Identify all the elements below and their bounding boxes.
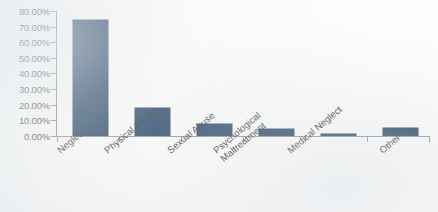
x-label-line: Medical Neglect — [285, 104, 344, 156]
x-label-line: Neglect — [55, 126, 87, 155]
x-label-line: Physical Abuse — [102, 106, 158, 156]
bar-chart: 80.00% 70.00% 60.00% 50.00% 40.00% 30.00… — [0, 0, 438, 212]
x-label-psychological-maltreatment: Psychological Maltreatment — [211, 110, 270, 164]
x-label-other: Other — [377, 132, 402, 156]
x-label-sexual-abuse: Sexual Abuse — [165, 110, 217, 156]
x-label-medical-neglect: Medical Neglect — [285, 104, 344, 156]
x-label-line: Sexual Abuse — [165, 110, 217, 156]
x-label-neglect: Neglect — [55, 126, 87, 155]
x-axis-category-labels: Neglect Physical Abuse Sexual Abuse Psyc… — [0, 0, 438, 212]
x-label-physical-abuse: Physical Abuse — [102, 106, 158, 156]
x-label-line: Other — [377, 132, 402, 156]
